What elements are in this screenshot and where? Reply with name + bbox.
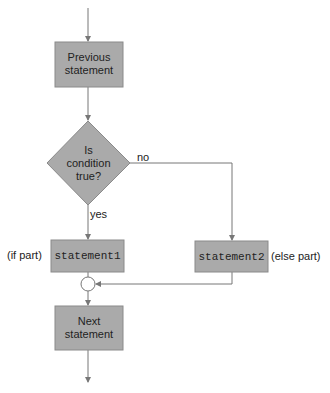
statement2-to-join-arrow [96,272,232,284]
statement2-label: statement2 [195,251,268,264]
decision-label: Is condition true? [47,144,130,183]
label-line: Next [55,315,123,328]
next-statement-label: Next statement [55,315,123,341]
statement1-label: statement1 [51,250,124,263]
join-connector [81,277,95,291]
flowchart-canvas [0,0,330,393]
previous-statement-label: Previous statement [55,51,123,77]
label-line: Is [47,144,130,157]
annotation-text: (else part) [271,250,321,262]
label-line: statement [55,64,123,77]
else-part-annotation: (else part) [271,250,321,263]
label-line: condition [47,157,130,170]
no-label: no [137,151,149,164]
no-arrow [130,163,232,240]
if-part-annotation: (if part) [7,249,42,262]
label-line: statement [55,328,123,341]
label-line: Previous [55,51,123,64]
annotation-text: (if part) [7,249,42,261]
yes-label: yes [90,208,107,221]
label-line: true? [47,170,130,183]
